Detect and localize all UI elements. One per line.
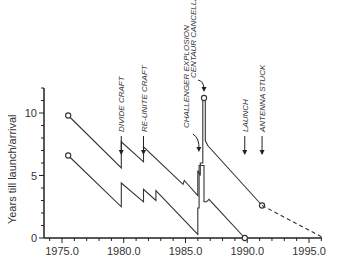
arrow-head-icon <box>260 150 265 155</box>
arrow-head-icon <box>242 150 247 155</box>
data-marker <box>66 113 71 118</box>
y-tick-label: 10 <box>25 107 37 119</box>
arrow-head-icon <box>141 150 146 155</box>
series-group <box>66 95 324 240</box>
x-tick-label: 1995.0 <box>292 245 326 257</box>
series-line-2 <box>68 156 245 239</box>
arrow-head-icon <box>202 87 207 92</box>
x-tick-label: 1975.0 <box>45 245 79 257</box>
annotation-label: RE-UNITE CRAFT <box>140 64 149 132</box>
y-axis-title: Years till launch/arrival <box>6 114 18 224</box>
x-tick-label: 1985.0 <box>169 245 203 257</box>
x-tick-label: 1990.0 <box>230 245 264 257</box>
data-marker <box>66 153 71 158</box>
y-tick-label: 5 <box>31 170 37 182</box>
annotation-label: LAUNCH <box>241 99 250 132</box>
annotation-label: ANTENNA STUCK <box>258 64 267 133</box>
chart: 1975.01980.01985.01990.01995.00510Years … <box>0 0 348 266</box>
series-line-1 <box>262 206 324 239</box>
annotations-group: DIVIDE CRAFTRE-UNITE CRAFTCHALLENGER EXP… <box>117 0 267 155</box>
annotation-label: DIVIDE CRAFT <box>117 75 126 132</box>
axes: 1975.01980.01985.01990.01995.00510Years … <box>6 88 326 257</box>
y-tick-label: 0 <box>31 232 37 244</box>
arrow-head-icon <box>196 147 201 152</box>
series-line-0 <box>68 98 262 206</box>
x-tick-label: 1980.0 <box>107 245 141 257</box>
data-marker <box>259 203 264 208</box>
annotation-label: CENTAUR CANCELLATION <box>189 0 198 78</box>
data-marker <box>201 95 206 100</box>
data-marker <box>242 235 247 240</box>
arrow-head-icon <box>119 150 124 155</box>
